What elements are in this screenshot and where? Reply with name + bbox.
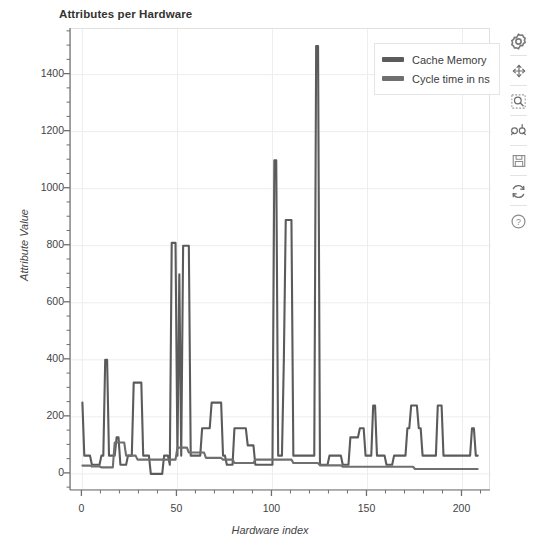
- toolbar-divider: [510, 205, 527, 206]
- legend-label-cycle-time: Cycle time in ns: [412, 73, 490, 85]
- plot-canvas: Attributes per Hardware 0200400600800100…: [0, 0, 540, 548]
- x-axis-label: Hardware index: [0, 524, 540, 536]
- toolbar-divider: [510, 175, 527, 176]
- x-tick-label: 50: [156, 502, 196, 514]
- x-tick-label: 200: [441, 502, 481, 514]
- x-tick-label: 0: [61, 502, 101, 514]
- toolbar-divider: [510, 145, 527, 146]
- y-axis-label: Attribute Value: [18, 185, 30, 305]
- x-tick-label: 100: [251, 502, 291, 514]
- help-tool-icon[interactable]: ?: [506, 208, 532, 234]
- bokeh-logo-icon: [506, 28, 532, 54]
- legend-item-cache-memory[interactable]: Cache Memory: [382, 50, 490, 69]
- toolbar-divider: [510, 85, 527, 86]
- legend-swatch-cache-memory: [382, 57, 404, 62]
- toolbar-divider: [510, 55, 527, 56]
- legend-label-cache-memory: Cache Memory: [412, 54, 487, 66]
- plot-toolbar[interactable]: ?: [503, 28, 534, 234]
- pan-tool-icon[interactable]: [506, 58, 532, 84]
- box-zoom-tool-icon[interactable]: [506, 88, 532, 114]
- x-tick-label: 150: [346, 502, 386, 514]
- legend-swatch-cycle-time: [382, 76, 404, 81]
- save-tool-icon[interactable]: [506, 148, 532, 174]
- wheel-zoom-tool-icon[interactable]: [506, 118, 532, 144]
- legend: Cache Memory Cycle time in ns: [374, 43, 500, 95]
- svg-text:?: ?: [516, 217, 521, 227]
- reset-tool-icon[interactable]: [506, 178, 532, 204]
- legend-item-cycle-time[interactable]: Cycle time in ns: [382, 69, 490, 88]
- toolbar-divider: [510, 115, 527, 116]
